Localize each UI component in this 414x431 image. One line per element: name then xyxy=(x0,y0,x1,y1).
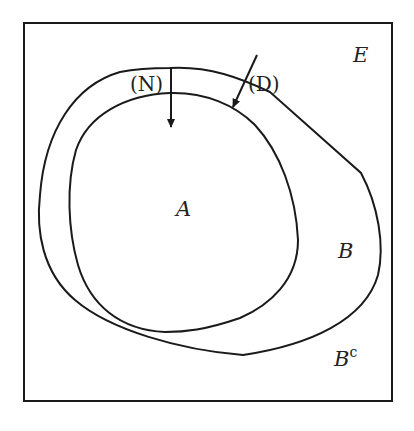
label-b: B xyxy=(337,239,353,263)
set-b-boundary xyxy=(39,68,381,355)
universe-box xyxy=(24,23,392,401)
label-e: E xyxy=(352,43,368,67)
venn-diagram: (N) (D) E A B Bc xyxy=(0,0,414,431)
label-n: (N) xyxy=(130,72,163,96)
label-d: (D) xyxy=(248,72,280,96)
label-b-complement: Bc xyxy=(333,344,357,371)
label-a: A xyxy=(174,197,191,221)
label-complement-sup: c xyxy=(349,344,357,360)
